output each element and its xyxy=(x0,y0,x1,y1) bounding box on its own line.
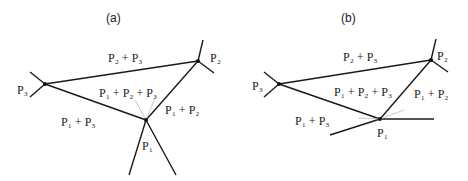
label-p1-p2-p3: P₁ + P₂ + P₃ xyxy=(334,85,392,99)
label-p1-p2-p3: P₁ + P₂ + P₃ xyxy=(99,86,157,100)
label-p1-p2: P₁ + P₂ xyxy=(414,87,448,101)
label-p1: P₁ xyxy=(377,126,388,140)
tropical-curve-diagram: (a) P₃ P₂ P₁ P₂ + P₃ P₁ + P₂ + P₃ P₁ + P… xyxy=(0,0,468,181)
label-p3: P₃ xyxy=(17,83,28,97)
label-p1-p3: P₁ + P₃ xyxy=(61,115,95,129)
label-p1-p2: P₁ + P₂ xyxy=(165,103,199,117)
label-p2: P₂ xyxy=(437,49,448,63)
label-p1: P₁ xyxy=(142,139,153,153)
label-p2-p3: P₂ + P₃ xyxy=(343,50,377,64)
panel-b: (b) P₃ P₂ P₁ P₂ + P₃ P₁ + P₂ + P₃ P₁ + P… xyxy=(252,11,448,140)
panel-a: (a) P₃ P₂ P₁ P₂ + P₃ P₁ + P₂ + P₃ P₁ + P… xyxy=(17,11,221,175)
label-p3: P₃ xyxy=(252,79,263,93)
label-p2: P₂ xyxy=(210,51,221,65)
panel-b-title: (b) xyxy=(341,11,356,25)
label-p1-p3: P₁ + P₃ xyxy=(295,114,329,128)
panel-a-title: (a) xyxy=(106,11,121,25)
label-p2-p3: P₂ + P₃ xyxy=(108,51,142,65)
